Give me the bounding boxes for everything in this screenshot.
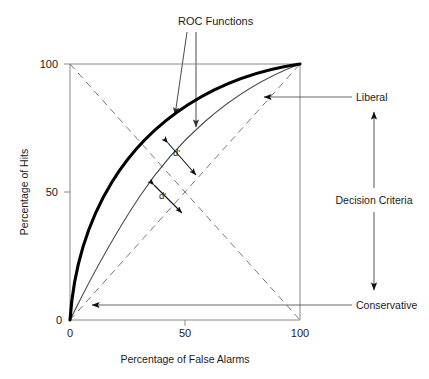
y-tick-label-100: 100 [40, 58, 58, 70]
dprime-lower-label: d' [159, 190, 166, 201]
y-axis-title: Percentage of Hits [18, 149, 30, 235]
x-tick-label-0: 0 [67, 327, 73, 339]
decision-criteria-label: Decision Criteria [335, 194, 412, 206]
conservative-label: Conservative [356, 299, 417, 311]
x-axis-title: Percentage of False Alarms [121, 353, 250, 365]
dprime-upper-label: d' [173, 147, 180, 158]
figure-title: ROC Functions [178, 15, 254, 27]
x-tick-label-50: 50 [179, 327, 191, 339]
x-tick-label-100: 100 [291, 327, 309, 339]
roc-figure: ROC Functions 100 50 0 0 50 100 Percenta… [0, 0, 429, 379]
y-tick-label-0: 0 [56, 314, 62, 326]
liberal-label: Liberal [356, 91, 388, 103]
y-tick-label-50: 50 [46, 186, 58, 198]
title-leader-arrow-thick-curve [175, 32, 187, 115]
